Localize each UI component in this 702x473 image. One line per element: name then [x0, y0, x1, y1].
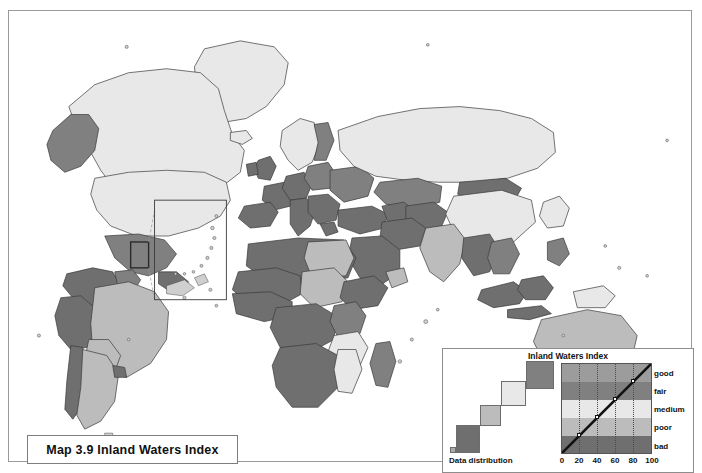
region-mexico — [105, 234, 177, 276]
island-speck — [37, 334, 40, 337]
island-speck — [666, 139, 669, 142]
inset-island — [174, 273, 177, 276]
inset-island — [200, 264, 203, 267]
region-alaska — [47, 115, 99, 173]
inset-island — [209, 288, 212, 291]
region-southern-africa — [272, 344, 340, 408]
region-india — [420, 224, 466, 282]
band-label-bad: bad — [654, 442, 668, 451]
region-greece — [320, 222, 338, 236]
island-speck — [215, 304, 218, 307]
xtick-20: 20 — [575, 456, 584, 465]
region-balkans — [308, 194, 340, 224]
data-point-20 — [577, 433, 581, 437]
data-point-60 — [613, 397, 617, 401]
region-mozambique — [334, 349, 362, 393]
legend-title: Inland Waters Index — [443, 351, 693, 361]
map-title-text: Map 3.9 Inland Waters Index — [46, 443, 218, 457]
island-speck — [562, 334, 565, 337]
dist-square-good — [526, 361, 554, 389]
band-label-fair: fair — [654, 387, 666, 396]
data-point-40 — [595, 415, 599, 419]
inset-island — [211, 226, 215, 230]
island-speck — [183, 296, 186, 299]
band-label-medium: medium — [654, 405, 685, 414]
band-label-good: good — [654, 369, 674, 378]
island-speck — [127, 338, 130, 341]
data-distribution-chart — [448, 363, 560, 455]
xtick-100: 100 — [645, 456, 658, 465]
region-korea-japan — [539, 196, 569, 228]
xtick-60: 60 — [611, 456, 620, 465]
island-speck — [426, 43, 429, 46]
island-speck — [410, 338, 413, 341]
region-yemen-oman — [386, 268, 408, 288]
region-java — [508, 306, 552, 320]
xtick-40: 40 — [593, 456, 602, 465]
xtick-80: 80 — [629, 456, 638, 465]
legend-panel: Inland Waters Index Data distribution — [442, 348, 694, 473]
dist-square-fair — [501, 381, 526, 406]
inset-island — [213, 236, 216, 239]
inset-island — [192, 270, 195, 273]
index-transfer-line — [562, 364, 651, 453]
region-uruguay — [113, 365, 127, 377]
island-speck — [646, 274, 649, 277]
region-papua — [573, 286, 615, 308]
island-speck — [604, 245, 607, 248]
map-title-box: Map 3.9 Inland Waters Index — [27, 435, 238, 464]
dist-square-medium — [480, 405, 501, 426]
island-speck — [436, 308, 439, 311]
band-label-poor: poor — [654, 423, 672, 432]
island-speck — [618, 266, 621, 269]
island-speck — [398, 360, 402, 364]
region-philippines — [547, 238, 569, 266]
inset-island — [183, 273, 186, 276]
region-indochina — [488, 238, 520, 274]
island-speck — [125, 45, 128, 48]
screenshot-root: .c{stroke:#3a3a3a;stroke-width:.7;stroke… — [0, 0, 702, 473]
inset-island — [194, 274, 208, 286]
dist-square-poor — [456, 425, 480, 453]
region-united-states — [91, 170, 231, 236]
island-speck — [424, 320, 428, 324]
inset-island — [206, 256, 209, 259]
region-ireland — [246, 162, 258, 176]
inset-island — [215, 215, 218, 218]
region-borneo — [518, 276, 554, 300]
figure-frame: .c{stroke:#3a3a3a;stroke-width:.7;stroke… — [8, 10, 692, 462]
region-russia — [338, 107, 555, 183]
region-madagascar — [370, 342, 396, 388]
inset-island — [210, 246, 213, 249]
region-turkey — [338, 206, 388, 234]
data-point-80 — [631, 379, 635, 383]
region-scandinavia — [280, 119, 320, 171]
index-chart — [561, 363, 652, 454]
xtick-0: 0 — [560, 456, 564, 465]
region-spain-portugal — [238, 202, 278, 228]
data-distribution-caption: Data distribution — [449, 456, 513, 465]
